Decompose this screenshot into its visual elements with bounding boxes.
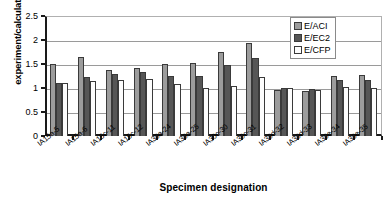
x-label-slot: IA30a-24 [157,140,185,180]
x-axis-title: Specimen designation [45,182,382,193]
y-tick-label: 1 [12,84,38,93]
y-tick-label: 1.5 [12,60,38,69]
bar-group [157,16,185,136]
legend-swatch [294,34,302,42]
bar [146,79,152,136]
legend-swatch [294,22,302,30]
x-label-slot: IA30c-31 [242,140,270,180]
bar [118,80,124,136]
x-label-slot: IA30e-34 [326,140,354,180]
y-tick-label: 2 [12,36,38,45]
bar-group [101,16,129,136]
bar-group [45,16,73,136]
bar-group [354,16,382,136]
bar-chart: experiment/calculation 00.511.522.5 IA15… [0,0,390,202]
x-label-slot: IA15c-11 [101,140,129,180]
legend-label: E/CFP [304,46,331,55]
bar [231,86,237,136]
x-label-slot: IA30e-35 [354,140,382,180]
legend-swatch [294,46,302,54]
x-label-slot: IA30d-32 [270,140,298,180]
x-label-slot: IA15c-12 [129,140,157,180]
bar-group [213,16,241,136]
bar-group [185,16,213,136]
y-tick-label: 2.5 [12,12,38,21]
legend-item[interactable]: E/ACI [294,20,331,32]
y-tick-label: 0.5 [12,108,38,117]
bar [371,88,377,136]
bar [343,87,349,136]
bar [259,77,265,136]
legend-item[interactable]: E/CFP [294,44,331,56]
bar [203,88,209,136]
legend-label: E/ACI [304,22,328,31]
x-axis-labels: IA15a-5IA15a-6IA15c-11IA15c-12IA30a-24IA… [45,140,382,180]
bar [174,84,180,136]
bar-group [129,16,157,136]
legend-label: E/EC2 [304,34,330,43]
legend-item[interactable]: E/EC2 [294,32,331,44]
bar-group [73,16,101,136]
y-tick-label: 0 [12,132,38,141]
bar [62,83,68,136]
bar [287,88,293,136]
bar [90,81,96,136]
bar-group [242,16,270,136]
chart-legend: E/ACIE/EC2E/CFP [290,17,336,59]
bar [315,90,321,136]
x-label-slot: IA30d-33 [298,140,326,180]
